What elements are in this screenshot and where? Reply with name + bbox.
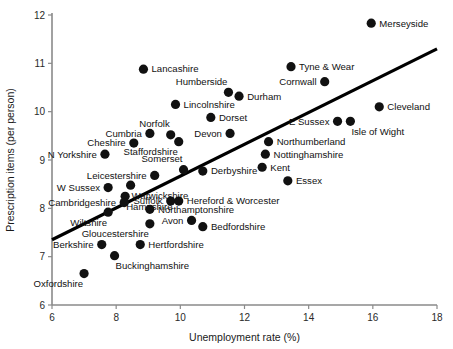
point-label: Berkshire xyxy=(53,239,94,250)
data-point xyxy=(145,219,154,228)
point-label: Cheshire xyxy=(87,137,125,148)
data-point xyxy=(234,92,243,101)
point-label: Durham xyxy=(247,91,281,102)
point-label: Bedfordshire xyxy=(211,221,265,232)
point-labels: MerseysideTyne & WearLancashireCornwallH… xyxy=(33,18,430,290)
data-point xyxy=(97,240,106,249)
data-point xyxy=(104,183,113,192)
data-point xyxy=(110,251,119,260)
data-point xyxy=(375,102,384,111)
x-tick-label: 14 xyxy=(303,312,315,323)
data-point xyxy=(126,181,135,190)
data-point xyxy=(264,137,273,146)
y-tick-label: 11 xyxy=(35,58,46,69)
data-point xyxy=(206,113,215,122)
data-point xyxy=(286,62,295,71)
y-tick-label: 6 xyxy=(39,300,45,311)
data-point xyxy=(320,77,329,86)
data-point xyxy=(187,216,196,225)
point-label: Somerset xyxy=(141,153,182,164)
point-label: Dorset xyxy=(219,112,248,123)
data-point xyxy=(79,269,88,278)
data-point xyxy=(198,222,207,231)
point-label: Devon xyxy=(194,128,222,139)
x-tick-label: 18 xyxy=(431,312,443,323)
y-tick-label: 9 xyxy=(39,155,45,166)
data-point xyxy=(145,129,154,138)
point-label: Kent xyxy=(270,162,290,173)
data-point xyxy=(136,240,145,249)
data-point xyxy=(224,88,233,97)
point-label: Merseyside xyxy=(379,18,428,29)
x-tick-label: 12 xyxy=(239,312,251,323)
data-point xyxy=(104,208,113,217)
data-point xyxy=(139,65,148,74)
y-tick-label: 12 xyxy=(34,10,46,21)
y-tick-label: 7 xyxy=(39,251,45,262)
data-point xyxy=(225,129,234,138)
point-label: E Sussex xyxy=(289,116,330,127)
point-label: Norfolk xyxy=(139,118,170,129)
point-label: Lincolnshire xyxy=(184,99,235,110)
point-label: Lancashire xyxy=(152,63,199,74)
x-axis-title: Unemployment rate (%) xyxy=(189,331,300,343)
x-tick-label: 6 xyxy=(49,312,55,323)
data-point xyxy=(100,150,109,159)
y-tick-label: 8 xyxy=(39,203,45,214)
point-label: Derbyshire xyxy=(211,165,257,176)
data-point xyxy=(150,171,159,180)
point-label: Avon xyxy=(162,215,184,226)
x-tick-label: 10 xyxy=(175,312,187,323)
point-label: Northamptonshire xyxy=(158,204,234,215)
point-label: Oxfordshire xyxy=(33,278,83,289)
point-label: Buckinghamshire xyxy=(116,260,190,271)
point-label: Nottinghamshire xyxy=(273,149,343,160)
point-label: Wiltshire xyxy=(70,217,107,228)
x-tick-label: 16 xyxy=(367,312,379,323)
point-label: Cambridgeshire xyxy=(48,197,116,208)
point-label: Gloucestershire xyxy=(82,228,149,239)
point-label: Hertfordshire xyxy=(148,239,203,250)
point-label: Cleveland xyxy=(387,101,430,112)
point-label: N Yorkshire xyxy=(48,149,97,160)
point-label: Leicestershire xyxy=(87,170,147,181)
data-point xyxy=(171,100,180,109)
point-label: Essex xyxy=(296,175,322,186)
point-label: Northumberland xyxy=(277,136,346,147)
point-label: W Sussex xyxy=(57,182,100,193)
data-point xyxy=(198,167,207,176)
data-point xyxy=(283,176,292,185)
scatter-chart: 6810121416186789101112 MerseysideTyne & … xyxy=(0,0,453,349)
plot-area: 6810121416186789101112 MerseysideTyne & … xyxy=(0,0,453,349)
data-point xyxy=(174,137,183,146)
point-label: Cornwall xyxy=(279,76,316,87)
y-tick-label: 10 xyxy=(34,106,46,117)
point-label: Humberside xyxy=(176,76,228,87)
data-point xyxy=(166,130,175,139)
data-point xyxy=(179,165,188,174)
data-point xyxy=(346,117,355,126)
data-point xyxy=(258,163,267,172)
data-point xyxy=(367,19,376,28)
data-point xyxy=(333,117,342,126)
point-label: Isle of Wight xyxy=(351,126,404,137)
y-axis-title: Prescription items (per person) xyxy=(4,88,16,232)
x-tick-label: 8 xyxy=(113,312,119,323)
data-point xyxy=(261,150,270,159)
point-label: Tyne & Wear xyxy=(299,61,355,72)
